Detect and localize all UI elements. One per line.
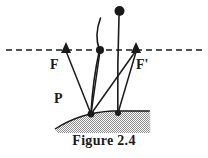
point-p-label: P <box>54 92 63 106</box>
figure-caption: Figure 2.4 <box>0 133 208 149</box>
curved-rays <box>91 16 119 113</box>
ground-surface <box>55 111 150 133</box>
ray-lines <box>66 51 136 114</box>
focal-point-left-triangle <box>61 42 71 53</box>
curve-left-lens-edge <box>91 18 101 113</box>
ray-Fprime-to-right-contact <box>118 52 136 113</box>
object-tip-dot <box>115 6 125 16</box>
axis-markers <box>61 42 141 54</box>
curve-right-object <box>118 16 119 112</box>
axis-center-dot <box>96 46 104 54</box>
focal-point-right-label: F' <box>136 58 148 72</box>
ray-F-to-P <box>66 51 91 114</box>
focal-point-left-label: F <box>50 58 59 72</box>
figure-2-4: F F' P Figure 2.4 <box>0 0 208 158</box>
ground-contact-left-dot <box>88 111 95 118</box>
ground-contact-right-dot <box>115 110 121 116</box>
focal-point-right-triangle <box>131 42 141 53</box>
